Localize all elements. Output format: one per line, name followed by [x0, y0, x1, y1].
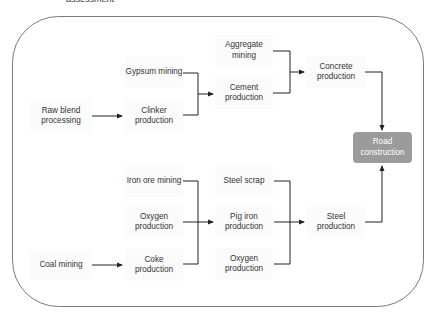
node-raw-blend-processing: Raw blend processing — [30, 100, 92, 132]
node-clinker-production: Clinker production — [125, 100, 183, 132]
node-concrete-production: Concrete production — [307, 56, 365, 88]
node-coke-production: Coke production — [125, 249, 183, 281]
node-iron-ore-mining: Iron ore mining — [125, 165, 183, 197]
node-aggregate-mining: Aggregate mining — [215, 35, 273, 66]
node-coal-mining: Coal mining — [30, 250, 92, 280]
node-oxygen-production-1: Oxygen production — [125, 206, 183, 238]
node-oxygen-production-2: Oxygen production — [215, 248, 273, 280]
node-pig-iron-production: Pig iron production — [215, 206, 273, 238]
node-steel-production: Steel production — [307, 206, 365, 238]
node-steel-scrap: Steel scrap — [215, 166, 273, 196]
node-road-construction: Road construction — [353, 132, 412, 163]
node-gypsum-mining: Gypsum mining — [125, 57, 183, 88]
node-cement-production: Cement production — [215, 77, 273, 109]
